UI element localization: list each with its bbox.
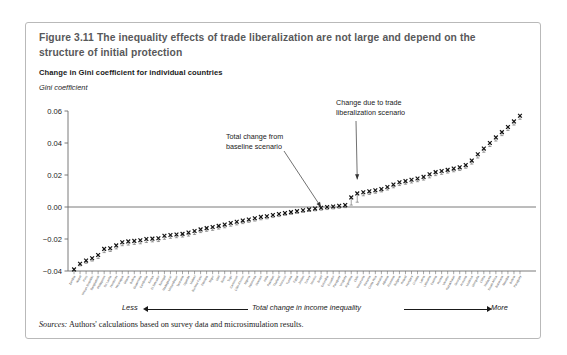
data-point [506,125,510,130]
data-point [283,211,287,215]
y-tick-label: 0.06 [47,107,62,116]
data-point [96,253,100,258]
y-tick-label: 0.04 [47,139,62,148]
data-point [416,177,420,182]
data-point [271,213,275,217]
data-point [187,231,191,236]
data-point [319,206,323,210]
data-point [476,152,480,158]
data-point [217,224,221,229]
data-point [518,114,522,119]
data-point [163,234,167,239]
data-point [193,229,197,234]
data-point [72,268,76,272]
data-point [452,167,456,172]
chart-subtitle: Change in Gini coefficient for individua… [39,68,223,77]
data-point [78,262,82,266]
data-point [385,185,389,190]
data-point [410,178,414,183]
data-point [440,169,444,174]
annotation-text-line: liberalization scenario [336,108,405,117]
data-point [265,214,269,218]
x-category-label: Benin [220,275,227,284]
annotation-leader-line [284,151,321,207]
y-tick-label: −0.02 [43,235,62,244]
axis-less-label: Less [122,303,138,312]
data-point [229,221,233,226]
figure-title: Figure 3.11 The inequality effects of tr… [39,31,519,60]
annotation-arrow-icon [355,174,359,179]
chart-annotation: Total change frombaseline scenario [226,132,321,207]
sources-note: Sources: Authors' calculations based on … [39,320,529,329]
data-point [337,204,341,208]
data-point [138,238,142,243]
annotation-text-line: Total change from [226,132,283,141]
y-tick-label: −0.04 [43,267,62,276]
data-point [211,225,215,230]
annotation-arrow-icon [316,202,321,207]
data-point [482,147,486,153]
data-point [488,141,492,146]
data-point [404,179,408,184]
data-point [247,218,251,223]
chart-annotation: Change due to tradeliberalization scenar… [336,98,405,179]
axis-line-left [148,309,248,310]
data-point [422,175,426,180]
scatter-plot: −0.04−0.020.000.020.040.06ZambiaNepalPer… [26,95,540,295]
data-point [235,220,239,225]
y-tick-label: 0.00 [47,203,62,212]
data-point [373,188,377,193]
data-point [114,244,118,249]
data-point [205,226,209,231]
y-tick-label: 0.02 [47,171,62,180]
data-point [144,237,148,242]
data-point [301,208,305,212]
data-point [181,232,185,237]
data-point [120,240,124,245]
data-point [464,163,468,168]
data-point [470,159,474,164]
data-series [72,114,522,271]
data-point [343,203,347,207]
data-point [259,215,263,220]
data-point [277,212,281,216]
figure-panel: Figure 3.11 The inequality effects of tr… [25,22,541,339]
data-point [458,165,462,170]
sources-text: Authors' calculations based on survey da… [67,320,303,329]
y-axis-title: Gini coefficient [39,83,87,92]
annotation-leader-line [356,121,357,179]
data-point [199,228,203,233]
data-point [102,247,106,253]
data-point [367,189,371,194]
data-point [355,192,359,203]
x-axis-direction-bar: Less Total change in income inequality M… [26,301,540,317]
axis-more-label: More [491,303,508,312]
data-point [379,187,383,192]
data-point [241,219,245,224]
data-point [132,239,136,244]
data-point [126,240,130,246]
data-point [307,208,311,212]
data-point [175,233,179,238]
data-point [434,170,438,175]
x-category-label: Nepal [75,275,82,284]
x-category-label: Niger [208,275,215,283]
data-point [392,183,396,188]
annotation-text-line: baseline scenario [226,142,282,151]
sources-label: Sources: [39,320,67,329]
data-point [90,256,94,261]
data-point [169,233,173,238]
axis-center-label: Total change in income inequality [252,303,361,312]
data-point [289,210,293,214]
data-point [512,120,516,126]
data-point [84,259,88,264]
data-point [156,236,160,241]
data-point [500,130,504,135]
data-point [108,246,112,251]
plot-svg: −0.04−0.020.000.020.040.06ZambiaNepalPer… [26,95,540,295]
data-point [295,209,299,213]
data-point [361,190,365,195]
data-point [253,216,257,221]
data-point [150,237,154,242]
data-point [428,172,432,178]
